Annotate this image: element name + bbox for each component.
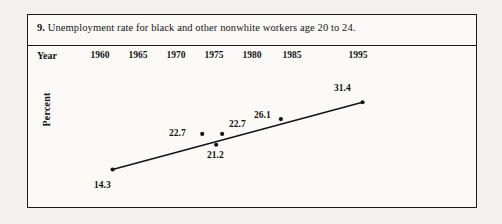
caption-strip: 9. Unemployment rate for black and other… xyxy=(28,15,476,46)
data-point-22-7 xyxy=(200,132,204,136)
figure-caption-text: Unemployment rate for black and other no… xyxy=(48,22,356,33)
data-label-3: 22.7 xyxy=(229,119,246,129)
data-label-0: 14.3 xyxy=(94,180,111,190)
figure-frame: 9. Unemployment rate for black and other… xyxy=(27,14,477,208)
figure-caption: 9. Unemployment rate for black and other… xyxy=(37,22,356,33)
data-point-14-3 xyxy=(111,167,115,171)
figure-number: 9. xyxy=(37,22,45,33)
data-point-21-2 xyxy=(214,143,218,147)
data-point-31-4 xyxy=(360,100,364,104)
data-label-2: 21.2 xyxy=(207,150,224,160)
data-label-1: 22.7 xyxy=(169,128,186,138)
data-label-4: 26.1 xyxy=(254,110,271,120)
data-label-5: 31.4 xyxy=(334,83,351,93)
trend-line xyxy=(113,102,363,169)
data-point-26-1 xyxy=(279,117,283,121)
data-point-22-7 xyxy=(220,132,224,136)
plot-area: Year 1960196519701975198019851995 Percen… xyxy=(28,46,476,207)
